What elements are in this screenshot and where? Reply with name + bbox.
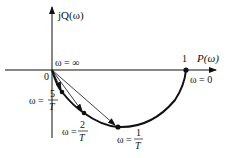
point-one (183, 67, 188, 72)
nyquist-diagram: jQ(ω) P(ω) 0 ω = ∞ 1 ω = 0 ω = 5 T ω = 2… (0, 0, 227, 158)
label-1T-num: 1 (136, 127, 141, 138)
label-1T-den: T (135, 140, 142, 151)
tick-one: 1 (182, 53, 187, 64)
nyquist-curve (52, 70, 186, 127)
label-5T-prefix: ω = (29, 95, 44, 106)
vector-2T (52, 70, 82, 111)
label-5T-num: 5 (50, 88, 55, 99)
x-axis-label: P(ω) (196, 52, 219, 65)
point-5T (60, 90, 65, 95)
label-omega-zero: ω = 0 (190, 74, 212, 85)
origin-label: 0 (44, 71, 49, 82)
label-2T-den: T (79, 132, 86, 143)
label-2T-prefix: ω = (62, 126, 77, 137)
label-2T-num: 2 (80, 119, 85, 130)
y-axis-label: jQ(ω) (57, 9, 84, 22)
label-1T-prefix: ω = (117, 134, 132, 145)
label-omega-infinity: ω = ∞ (55, 57, 79, 68)
point-1T (115, 124, 120, 129)
point-2T (82, 111, 87, 116)
label-5T-den: T (49, 101, 56, 112)
vector-1T (52, 70, 115, 125)
